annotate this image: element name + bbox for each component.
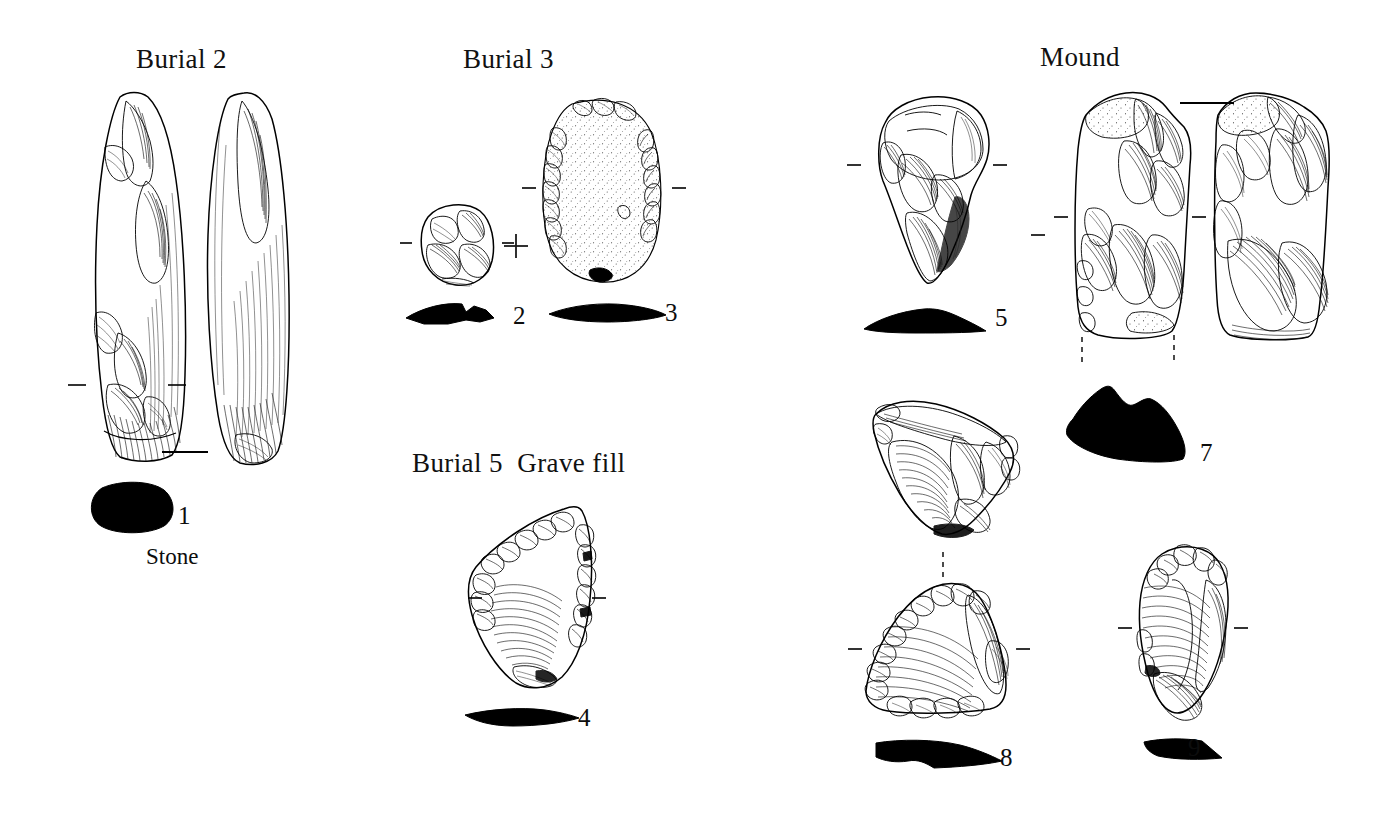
artefact-8-section bbox=[872, 735, 1012, 775]
artefact-9-drawing bbox=[1070, 540, 1260, 740]
artefact-4-drawing bbox=[440, 495, 630, 695]
artefact-number-8: 8 bbox=[1000, 745, 1013, 770]
artefact-7-drawing bbox=[1052, 85, 1352, 370]
artefact-7-section bbox=[1053, 375, 1213, 465]
artefact-number-7: 7 bbox=[1200, 440, 1213, 465]
artefact-1-view-a bbox=[94, 93, 185, 462]
artefact-7-view-a bbox=[1075, 93, 1191, 363]
artefact-9-section bbox=[1142, 736, 1232, 766]
artefact-8-view-b bbox=[846, 575, 1036, 735]
artefact-number-2: 2 bbox=[513, 303, 526, 328]
artefact-1-drawing bbox=[60, 85, 320, 475]
group-heading-burial-2: Burial 2 bbox=[136, 46, 227, 73]
artefact-number-4: 4 bbox=[578, 705, 591, 730]
artefact-1-section bbox=[80, 478, 190, 538]
material-label-stone: Stone bbox=[146, 545, 198, 568]
artefact-5-section bbox=[862, 305, 992, 337]
artefact-4-section bbox=[463, 705, 583, 731]
artefact-plate: Burial 2 Burial 3 Mound Burial 5 Grave f… bbox=[0, 0, 1389, 824]
artefact-2-section bbox=[404, 300, 504, 330]
artefact-3-drawing bbox=[520, 88, 690, 303]
artefact-5-drawing bbox=[845, 85, 1045, 315]
group-heading-burial-5: Burial 5 Grave fill bbox=[412, 450, 625, 477]
artefact-number-1: 1 bbox=[178, 503, 191, 528]
artefact-8-view-a bbox=[840, 390, 1030, 550]
artefact-number-9: 9 bbox=[1188, 735, 1201, 760]
group-heading-mound: Mound bbox=[1040, 44, 1120, 71]
artefact-1-view-b bbox=[207, 93, 289, 465]
artefact-number-5: 5 bbox=[995, 305, 1008, 330]
group-heading-burial-3: Burial 3 bbox=[463, 46, 554, 73]
artefact-3-section bbox=[545, 300, 670, 328]
artefact-number-3: 3 bbox=[665, 300, 678, 325]
